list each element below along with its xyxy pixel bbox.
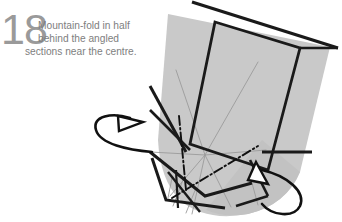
origami-instruction-page: 18 Mountain-fold in half behind the angl… <box>0 0 342 222</box>
arrow-left-head <box>118 116 143 131</box>
origami-diagram <box>0 0 342 222</box>
mountain-fold-arrow-left <box>95 115 152 152</box>
diagram-svg <box>0 0 342 222</box>
